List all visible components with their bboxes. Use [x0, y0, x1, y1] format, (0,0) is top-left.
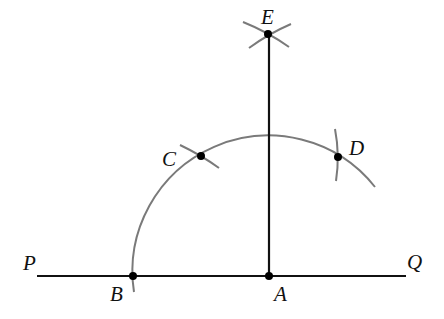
label-a: A [272, 282, 287, 306]
label-b: B [110, 282, 123, 306]
point-b [129, 272, 137, 280]
label-c: C [162, 147, 177, 171]
geometry-diagram: E C D P Q B A [0, 0, 444, 319]
point-d [334, 153, 342, 161]
label-p: P [22, 251, 36, 275]
point-c [197, 152, 205, 160]
label-d: D [348, 136, 364, 160]
label-e: E [260, 5, 274, 29]
point-e [264, 30, 272, 38]
label-q: Q [407, 250, 422, 274]
point-a [265, 272, 273, 280]
